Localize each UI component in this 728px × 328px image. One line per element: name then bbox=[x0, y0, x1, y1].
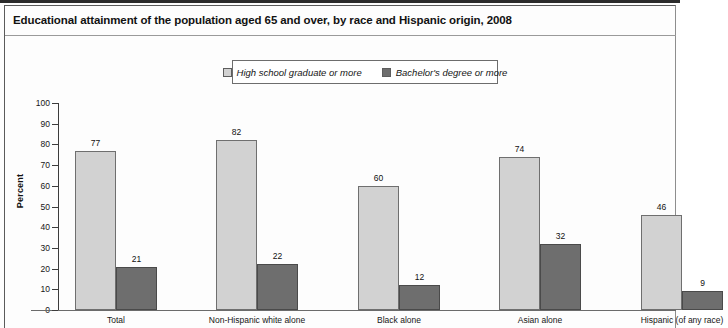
legend-swatch-light-icon bbox=[223, 68, 232, 77]
y-axis-tick-label: 10 bbox=[28, 285, 50, 294]
x-axis-category-label: Black alone bbox=[339, 315, 459, 325]
bar bbox=[682, 291, 723, 310]
bar-value-label: 60 bbox=[358, 174, 399, 183]
chart-title: Educational attainment of the population… bbox=[13, 14, 653, 26]
y-axis-tick bbox=[52, 310, 58, 311]
y-axis-tick bbox=[52, 227, 58, 228]
y-axis-tick-label: 80 bbox=[28, 140, 50, 149]
x-axis-category-label: Asian alone bbox=[480, 315, 600, 325]
bar-value-label: 22 bbox=[257, 252, 298, 261]
legend-label-high-school: High school graduate or more bbox=[237, 67, 362, 78]
y-axis-tick bbox=[52, 103, 58, 104]
bar-value-label: 77 bbox=[75, 139, 116, 148]
y-axis-tick bbox=[52, 269, 58, 270]
bar bbox=[75, 151, 116, 310]
y-axis-tick bbox=[52, 289, 58, 290]
bar-value-label: 32 bbox=[540, 232, 581, 241]
x-axis-line bbox=[31, 310, 676, 311]
bar-value-label: 21 bbox=[116, 255, 157, 264]
plot-area: 7721822260127432469 bbox=[58, 103, 672, 310]
title-divider bbox=[5, 35, 676, 36]
bar bbox=[116, 267, 157, 310]
bar-value-label: 82 bbox=[216, 128, 257, 137]
y-axis-tick-label: 90 bbox=[28, 120, 50, 129]
y-axis-tick bbox=[52, 248, 58, 249]
y-axis-tick-label: 30 bbox=[28, 244, 50, 253]
y-axis-tick-label: 60 bbox=[28, 182, 50, 191]
y-axis-tick bbox=[52, 124, 58, 125]
y-axis-tick bbox=[52, 186, 58, 187]
bar bbox=[358, 186, 399, 310]
bar-value-label: 74 bbox=[499, 145, 540, 154]
y-axis-tick bbox=[52, 207, 58, 208]
bar bbox=[216, 140, 257, 310]
y-axis-tick-label: 100 bbox=[28, 99, 50, 108]
bar-value-label: 9 bbox=[682, 279, 723, 288]
legend-swatch-dark-icon bbox=[382, 68, 391, 77]
y-axis-tick-label: 50 bbox=[28, 203, 50, 212]
chart-legend: High school graduate or more Bachelor's … bbox=[232, 60, 498, 84]
y-axis-tick bbox=[52, 144, 58, 145]
y-axis-tick bbox=[52, 165, 58, 166]
page-top-rule bbox=[0, 0, 680, 3]
bar bbox=[540, 244, 581, 310]
x-axis-category-label: Total bbox=[56, 315, 176, 325]
x-axis-category-label: Non-Hispanic white alone bbox=[197, 315, 317, 325]
legend-item-high-school: High school graduate or more bbox=[223, 67, 362, 78]
bar bbox=[641, 215, 682, 310]
bar bbox=[399, 285, 440, 310]
y-axis-tick-label: 20 bbox=[28, 265, 50, 274]
bar bbox=[257, 264, 298, 310]
legend-label-bachelors: Bachelor's degree or more bbox=[396, 67, 508, 78]
bar bbox=[499, 157, 540, 310]
y-axis-tick-label: 70 bbox=[28, 161, 50, 170]
y-axis-tick-label: 40 bbox=[28, 223, 50, 232]
y-axis-tick-labels: 1009080706050403020100 bbox=[22, 0, 50, 328]
bar-value-label: 12 bbox=[399, 273, 440, 282]
x-axis-category-label: Hispanic (of any race) bbox=[622, 315, 728, 325]
bar-value-label: 46 bbox=[641, 203, 682, 212]
legend-item-bachelors: Bachelor's degree or more bbox=[382, 67, 508, 78]
